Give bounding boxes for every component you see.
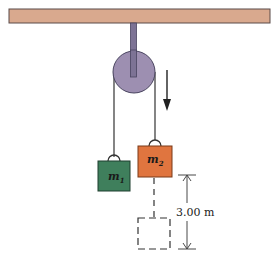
mass-m2: m2: [138, 140, 172, 177]
dimension-label: 3.00 m: [176, 206, 215, 219]
hook-m2: [149, 140, 161, 146]
ceiling: [9, 9, 270, 23]
atwood-machine-diagram: m1 m2 3.00 m: [0, 0, 277, 257]
final-position-box: [138, 218, 170, 249]
motion-arrow-down-icon: [163, 70, 171, 111]
pulley-axle-rod: [131, 50, 137, 77]
mass-m1: m1: [98, 155, 130, 191]
